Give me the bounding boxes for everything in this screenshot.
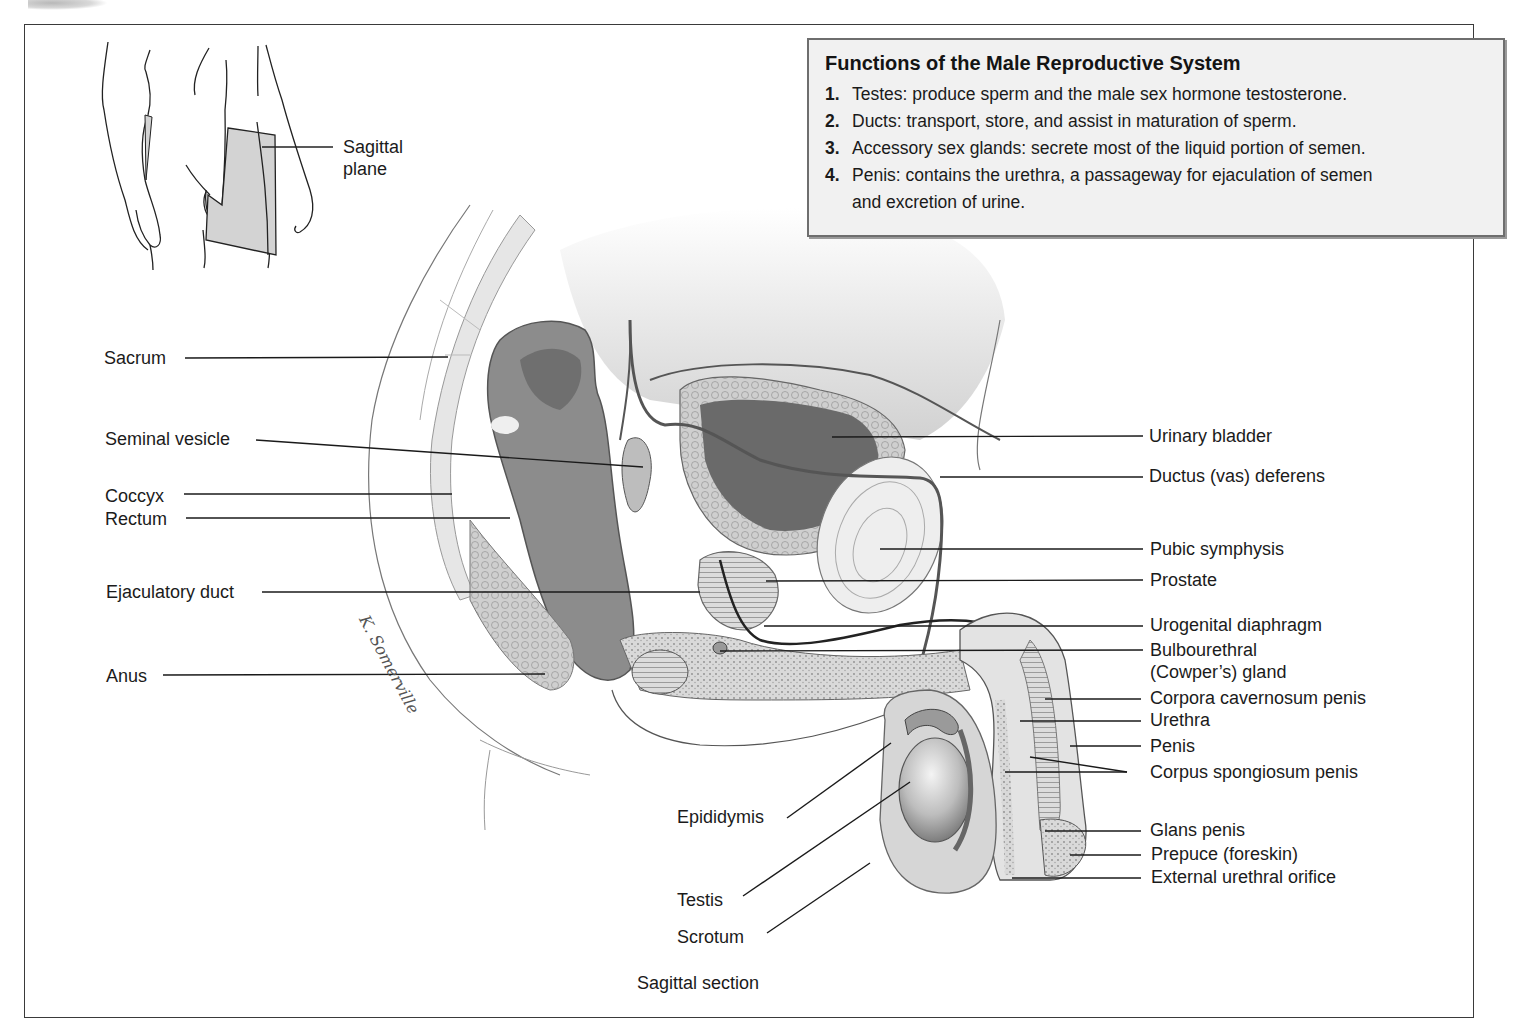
label-bulbourethral-line2: (Cowper’s) gland	[1150, 661, 1286, 683]
label-bulbourethral-line1: Bulbourethral	[1150, 639, 1286, 661]
label-epididymis: Epididymis	[677, 806, 764, 828]
label-sagittal-plane-line2: plane	[343, 158, 403, 180]
label-sagittal-plane: Sagittal plane	[343, 136, 403, 180]
label-prostate: Prostate	[1150, 569, 1217, 591]
info-box-title: Functions of the Male Reproductive Syste…	[825, 52, 1487, 75]
prostate-shape	[698, 552, 778, 630]
label-pubic-symphysis: Pubic symphysis	[1150, 538, 1284, 560]
label-sacrum: Sacrum	[104, 347, 166, 369]
label-bulbourethral-gland: Bulbourethral (Cowper’s) gland	[1150, 639, 1286, 683]
label-rectum: Rectum	[105, 508, 167, 530]
label-testis: Testis	[677, 889, 723, 911]
label-corpus-spongiosum: Corpus spongiosum penis	[1150, 761, 1358, 783]
label-prepuce: Prepuce (foreskin)	[1151, 843, 1298, 865]
functions-list: 1.Testes: produce sperm and the male sex…	[825, 81, 1487, 216]
function-item-accessory-glands: 3.Accessory sex glands: secrete most of …	[825, 135, 1487, 162]
label-ejaculatory-duct: Ejaculatory duct	[106, 581, 234, 603]
label-ductus-deferens: Ductus (vas) deferens	[1149, 465, 1325, 487]
label-penis: Penis	[1150, 735, 1195, 757]
function-item-testes: 1.Testes: produce sperm and the male sex…	[825, 81, 1487, 108]
figure: Sagittal plane Functions of the Male Rep…	[0, 0, 1514, 1029]
label-glans-penis: Glans penis	[1150, 819, 1245, 841]
label-seminal-vesicle: Seminal vesicle	[105, 428, 230, 450]
label-corpora-cavernosum: Corpora cavernosum penis	[1150, 687, 1366, 709]
label-external-urethral-orifice: External urethral orifice	[1151, 866, 1336, 888]
function-item-penis: 4.Penis: contains the urethra, a passage…	[825, 162, 1487, 216]
label-urinary-bladder: Urinary bladder	[1149, 425, 1272, 447]
label-scrotum: Scrotum	[677, 926, 744, 948]
label-urogenital-diaphragm: Urogenital diaphragm	[1150, 614, 1322, 636]
label-sagittal-plane-line1: Sagittal	[343, 136, 403, 158]
label-anus: Anus	[106, 665, 147, 687]
functions-info-box: Functions of the Male Reproductive Syste…	[807, 38, 1505, 237]
label-urethra: Urethra	[1150, 709, 1210, 731]
testis-shape	[899, 738, 971, 842]
figure-caption: Sagittal section	[637, 973, 759, 994]
function-item-ducts: 2.Ducts: transport, store, and assist in…	[825, 108, 1487, 135]
label-coccyx: Coccyx	[105, 485, 164, 507]
